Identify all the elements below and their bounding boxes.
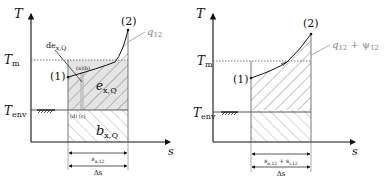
q12-psi12-label: q12 + ψ12 — [332, 39, 379, 52]
point-2-label: (2) — [121, 15, 137, 28]
right-diagram: T s Tm Tenv (1) (2) q12 + ψ12 sa,12 + si… — [193, 6, 379, 178]
tm-label: Tm — [4, 53, 20, 68]
anergy-region-right — [251, 110, 311, 142]
t-axis-label-right: T — [196, 6, 206, 21]
s-axis-label-right: s — [352, 145, 358, 158]
environment-ground-icon-right — [221, 112, 238, 115]
dim-delta-s-label: Δs — [94, 169, 103, 177]
point-1-label: (1) — [50, 70, 66, 83]
small-label-dc: (d) (c) — [70, 113, 85, 119]
environment-ground-icon — [37, 110, 55, 113]
small-label-ab: (a)(b) — [76, 65, 90, 71]
dim-sa12-label: sa,12 — [92, 155, 105, 164]
point-1-label-right: (1) — [233, 73, 249, 86]
q12-label: q12 — [147, 26, 162, 39]
de-strip — [80, 72, 84, 110]
t-axis-label: T — [14, 6, 24, 21]
left-diagram: T s Tm Tenv (1) (2) q12 dex,Q (a)(b) (d)… — [4, 6, 174, 177]
point-2-label-right: (2) — [303, 17, 319, 30]
de-label: dex,Q — [46, 41, 66, 51]
s-axis-label: s — [168, 145, 174, 158]
tenv-label: Tenv — [4, 104, 27, 119]
dim-sa-si-label: sa,12 + si,12 — [264, 157, 298, 166]
ts-diagrams: T s Tm Tenv (1) (2) q12 dex,Q (a)(b) (d)… — [0, 0, 384, 182]
tm-label-right: Tm — [197, 54, 213, 69]
dim-delta-s-label-right: Δs — [277, 170, 286, 178]
